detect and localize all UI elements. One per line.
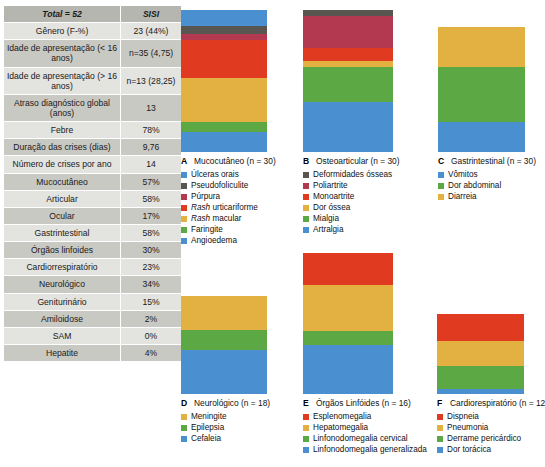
legend-item: Rash urticariforme	[181, 203, 267, 214]
table-row: Cardiorrespiratório23%	[4, 259, 181, 276]
chart-title-c: Gastrintestinal (n = 30)	[451, 156, 536, 166]
table-cell-value: 23 (44%)	[121, 23, 182, 40]
legend-item: Dispneia	[437, 412, 524, 423]
stacked-bar-b	[303, 10, 393, 152]
legend-label: Púrpura	[191, 192, 220, 203]
table-cell-value: 23%	[121, 259, 182, 276]
chart-legend-c: VômitosDor abdominalDiarreia	[438, 170, 525, 203]
chart-caption-b: B Osteoarticular (n = 30)	[303, 156, 393, 166]
legend-label: Monoartrite	[313, 192, 354, 203]
legend-swatch-icon	[437, 447, 443, 453]
bar-segment	[437, 389, 524, 394]
table-row: Número de crises por ano14	[4, 156, 181, 173]
chart-caption-a: A Mucocutâneo (n = 30)	[181, 156, 267, 166]
table-row: Neurológico34%	[4, 276, 181, 293]
legend-label: Faringite	[191, 225, 223, 236]
bar-segment	[438, 122, 525, 152]
bar-segment	[181, 296, 267, 330]
table-row: SAM0%	[4, 327, 181, 344]
legend-item: Mialgia	[303, 214, 393, 225]
legend-swatch-icon	[181, 205, 187, 211]
legend-swatch-icon	[181, 227, 187, 233]
legend-label: Dor óssea	[313, 203, 350, 214]
legend-item: Artralgia	[303, 225, 393, 236]
table-row: Articular58%	[4, 190, 181, 207]
legend-item: Vômitos	[438, 170, 525, 181]
bar-segment	[438, 27, 525, 67]
legend-item: Faringite	[181, 225, 267, 236]
legend-item: Derrame pericárdico	[437, 434, 524, 445]
bar-segment	[303, 102, 393, 152]
legend-swatch-icon	[181, 183, 187, 189]
chart-title-d: Neurológico (n = 18)	[194, 398, 270, 408]
table-cell-label: Gênero (F-%)	[4, 23, 121, 40]
legend-item: Linfonodomegalia generalizada	[303, 445, 393, 456]
legend-item: Pneumonia	[437, 423, 524, 434]
stacked-bar-e	[303, 253, 393, 394]
bar-segment	[303, 285, 393, 330]
legend-item: Diarreia	[438, 192, 525, 203]
table-cell-label: Órgãos linfoides	[4, 242, 121, 259]
legend-swatch-icon	[303, 425, 309, 431]
table-cell-value: 0%	[121, 327, 182, 344]
legend-swatch-icon	[181, 216, 187, 222]
table-cell-label: Gastrintestinal	[4, 224, 121, 241]
chart-title-b: Osteoarticular (n = 30)	[316, 156, 400, 166]
chart-panel-e: E Órgãos Linfóides (n = 16) Esplenomegal…	[303, 253, 393, 456]
legend-item: Hepatomegalia	[303, 423, 393, 434]
legend-item: Angioedema	[181, 236, 267, 247]
legend-item: Deformidades ósseas	[303, 170, 393, 181]
legend-label: Rash urticariforme	[191, 203, 258, 214]
legend-item: Poliartrite	[303, 181, 393, 192]
chart-panel-f: F Cardiorespiratório (n = 12 DispneiaPne…	[437, 314, 524, 456]
legend-swatch-icon	[303, 183, 309, 189]
bar-segment	[181, 350, 267, 394]
bar-segment	[303, 345, 393, 394]
legend-swatch-icon	[438, 194, 444, 200]
table-cell-value: 30%	[121, 242, 182, 259]
table-cell-value: 17%	[121, 207, 182, 224]
table-cell-value: 2%	[121, 310, 182, 327]
legend-label: Linfonodomegalia generalizada	[313, 445, 427, 456]
legend-item: Dor óssea	[303, 203, 393, 214]
bar-segment	[303, 331, 393, 345]
legend-item: Úlceras orais	[181, 170, 267, 181]
bar-segment	[437, 314, 524, 341]
table-header-row: Total = 52SISI	[4, 6, 181, 23]
table-row: Atraso diagnóstico global (anos)13	[4, 94, 181, 121]
chart-caption-e: E Órgãos Linfóides (n = 16)	[303, 398, 393, 408]
table-cell-value: 13	[121, 94, 182, 121]
table-cell-label: Amiloidose	[4, 310, 121, 327]
table-cell-label: Ocular	[4, 207, 121, 224]
legend-item: Meningite	[181, 412, 267, 423]
table-row: Hepatite4%	[4, 344, 181, 361]
chart-panel-c: C Gastrintestinal (n = 30) VômitosDor ab…	[438, 27, 525, 203]
table-row: Ocular17%	[4, 207, 181, 224]
table-cell-value: 4%	[121, 344, 182, 361]
summary-table: Total = 52SISIGênero (F-%)23 (44%)Idade …	[4, 6, 181, 362]
legend-swatch-icon	[437, 425, 443, 431]
chart-legend-b: Deformidades ósseasPoliartriteMonoartrit…	[303, 170, 393, 236]
legend-item: Monoartrite	[303, 192, 393, 203]
chart-panel-d: D Neurológico (n = 18) MeningiteEpilepsi…	[181, 296, 267, 445]
legend-label: Diarreia	[448, 192, 477, 203]
panel-letter-e: E	[303, 398, 316, 408]
table-cell-value: 34%	[121, 276, 182, 293]
stacked-bar-a	[181, 10, 267, 152]
legend-swatch-icon	[438, 172, 444, 178]
chart-caption-f: F Cardiorespiratório (n = 12	[437, 398, 524, 408]
legend-label: Artralgia	[313, 225, 344, 236]
bar-segment	[181, 122, 267, 132]
legend-swatch-icon	[437, 414, 443, 420]
table-header-total: Total = 52	[4, 6, 121, 23]
summary-table-body: Total = 52SISIGênero (F-%)23 (44%)Idade …	[4, 6, 181, 362]
chart-legend-e: EsplenomegaliaHepatomegaliaLinfonodomega…	[303, 412, 393, 456]
legend-label: Úlceras orais	[191, 170, 239, 181]
legend-item: Dor torácica	[437, 445, 524, 456]
bar-segment	[437, 366, 524, 389]
table-cell-label: Febre	[4, 122, 121, 139]
table-row: Órgãos linfoides30%	[4, 242, 181, 259]
legend-item: Pseudofoliculite	[181, 181, 267, 192]
bar-segment	[303, 48, 393, 61]
chart-legend-f: DispneiaPneumoniaDerrame pericárdicoDor …	[437, 412, 524, 456]
